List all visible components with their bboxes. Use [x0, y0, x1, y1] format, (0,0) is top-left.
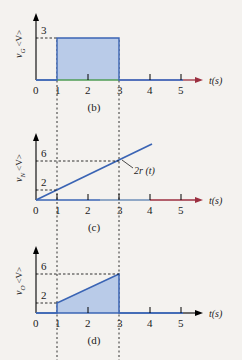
svg-text:vG<V>: vG<V>: [13, 30, 27, 58]
panel-c-ytick-2: 2: [41, 176, 47, 188]
panel-c-xtick-0: 0: [33, 204, 39, 216]
panel-c-x-ticks: [57, 194, 181, 200]
panel-b-ytick-3: 3: [41, 24, 47, 36]
panel-c-ytick-6: 6: [41, 147, 47, 159]
panel-d-ytick-2: 2: [41, 289, 47, 301]
panel-b-y-axis-label: vG<V>: [13, 30, 27, 58]
panel-d: 6 2 0 1 2 3 4 5 t(s) vO<V> (d): [13, 246, 223, 347]
panel-c-annotation-leader: [122, 160, 133, 168]
panel-b-x-arrowhead: [195, 77, 203, 83]
panel-b-letter: (b): [88, 101, 101, 114]
panel-b-xtick-4: 4: [147, 84, 153, 96]
panel-d-y-axis-label: vO<V>: [13, 267, 27, 295]
panel-d-xtick-0: 0: [33, 317, 39, 329]
panel-b: 3 0 1 2 3 4 5 t(s) vG<V> (b): [13, 13, 223, 114]
panel-d-y-axis-unit: <V>: [14, 267, 24, 284]
panel-d-xtick-1: 1: [55, 317, 61, 329]
panel-c: 6 2 0 1 2 3 4 5 2r (t) t(s) vN<V> (c): [13, 133, 223, 234]
panel-c-xtick-1: 1: [55, 204, 61, 216]
panel-b-y-axis: [33, 13, 39, 80]
panel-d-xtick-4: 4: [147, 317, 153, 329]
panel-b-xtick-5: 5: [178, 84, 184, 96]
panel-b-y-axis-unit: <V>: [14, 30, 24, 47]
figure-page: 3 0 1 2 3 4 5 t(s) vG<V> (b): [0, 0, 242, 360]
panel-c-annotation-2rt: 2r (t): [134, 165, 156, 177]
panel-d-xtick-5: 5: [178, 317, 184, 329]
panel-d-y-arrowhead: [33, 246, 39, 254]
panel-b-y-axis-subscript: G: [19, 48, 27, 53]
panel-d-ytick-6: 6: [41, 260, 47, 272]
panel-d-y-axis-subscript: O: [19, 285, 27, 290]
panel-b-pulse-fill: [57, 38, 119, 80]
svg-text:vN<V>: vN<V>: [13, 154, 27, 182]
panel-c-xtick-4: 4: [147, 204, 153, 216]
panel-c-x-arrowhead: [195, 197, 203, 203]
panel-c-xtick-5: 5: [178, 204, 184, 216]
panel-b-y-arrowhead: [33, 13, 39, 21]
panel-d-xtick-3: 3: [117, 317, 123, 329]
panel-c-y-arrowhead: [33, 133, 39, 141]
panel-b-x-axis-label: t(s): [209, 75, 223, 87]
panel-c-x-axis-label: t(s): [209, 195, 223, 207]
panel-d-xtick-2: 2: [85, 317, 91, 329]
panel-b-xtick-3: 3: [117, 84, 123, 96]
panel-c-y-axis-label: vN<V>: [13, 154, 27, 182]
panel-c-y-axis-subscript: N: [19, 173, 27, 179]
svg-text:vO<V>: vO<V>: [13, 267, 27, 295]
panel-b-xtick-1: 1: [55, 84, 61, 96]
panel-c-xtick-2: 2: [85, 204, 91, 216]
panel-b-xtick-2: 2: [85, 84, 91, 96]
panel-d-x-axis-label: t(s): [209, 308, 223, 320]
panel-b-xtick-0: 0: [33, 84, 39, 96]
panel-c-letter: (c): [88, 221, 101, 234]
three-panel-waveform-figure: 3 0 1 2 3 4 5 t(s) vG<V> (b): [0, 0, 242, 360]
panel-d-letter: (d): [88, 334, 101, 347]
panel-c-y-axis-unit: <V>: [14, 154, 24, 171]
panel-c-xtick-3: 3: [117, 204, 123, 216]
